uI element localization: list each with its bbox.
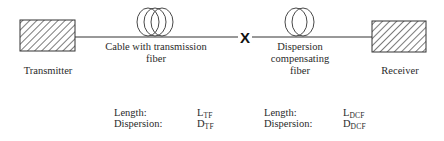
dcf-dispersion-label: Dispersion: [264,118,312,130]
transmitter-label: Transmitter [18,65,78,77]
transmitter-box [20,20,75,51]
transmission-fiber-coil-icon [137,8,173,36]
receiver-label: Receiver [373,65,427,77]
tf-dispersion-symbol-main: D [197,118,205,129]
transmission-cable-label: Cable with transmission fiber [98,41,214,65]
tf-dispersion-symbol: DTF [197,118,214,133]
dcf-label: Dispersion compensating fiber [265,41,335,77]
splice-x-icon: X [240,30,250,45]
dcf-label-line1: Dispersion [265,41,335,53]
transmission-cable-label-line1: Cable with transmission [98,41,214,53]
dcf-dispersion-subscript: DCF [351,122,366,131]
tf-dispersion-subscript: TF [205,122,214,131]
receiver-box [372,21,426,52]
dcf-label-line3: fiber [265,65,335,77]
tf-dispersion-label: Dispersion: [114,118,162,130]
transmission-cable-label-line2: fiber [98,53,214,65]
dcf-dispersion-symbol-main: D [343,118,351,129]
dcf-coil-icon [285,8,314,36]
dcf-dispersion-symbol: DDCF [343,118,366,133]
dcf-label-line2: compensating [265,53,335,65]
